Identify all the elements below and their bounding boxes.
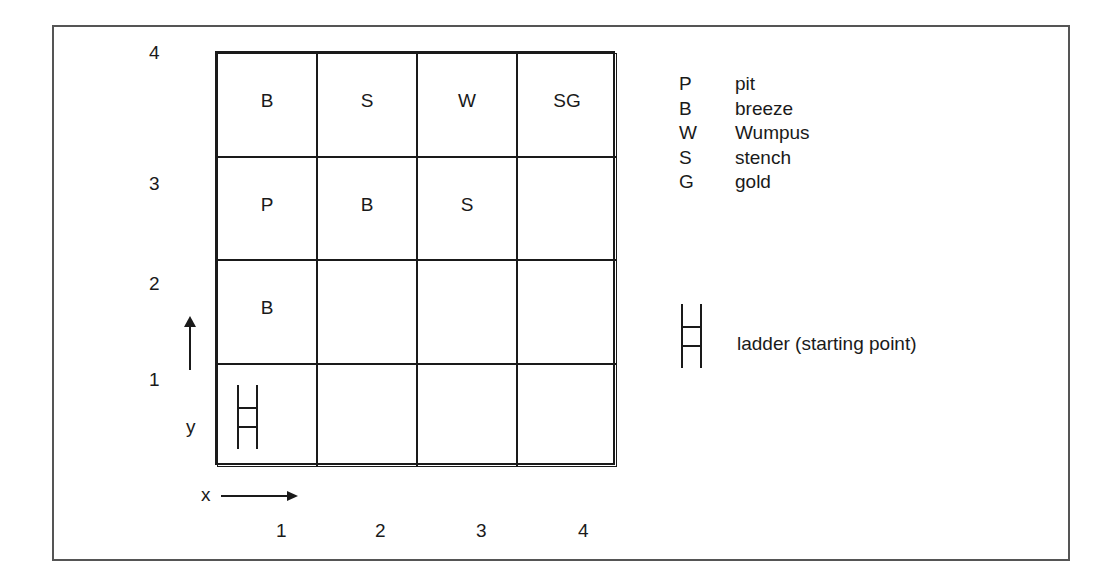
- x-label-1: 1: [276, 520, 287, 542]
- cell-2-2: [317, 260, 417, 364]
- wumpus-grid: B S W SG P B S B: [215, 51, 615, 465]
- legend: P pit B breeze W Wumpus S stench G gold: [679, 73, 810, 196]
- legend-item-pit: P pit: [679, 73, 810, 98]
- x-label-3: 3: [476, 520, 487, 542]
- legend-key: S: [679, 147, 735, 172]
- legend-key: B: [679, 98, 735, 123]
- legend-key: P: [679, 73, 735, 98]
- legend-ladder-icon: [681, 304, 703, 368]
- cell-4-1: [517, 364, 617, 468]
- legend-key: W: [679, 122, 735, 147]
- legend-label: Wumpus: [735, 122, 810, 147]
- cell-3-2: [417, 260, 517, 364]
- y-label-1: 1: [149, 369, 160, 391]
- x-axis-name: x: [201, 484, 211, 506]
- x-axis-arrowhead: [287, 491, 298, 501]
- x-label-4: 4: [578, 520, 589, 542]
- cell-4-2: [517, 260, 617, 364]
- legend-item-wumpus: W Wumpus: [679, 122, 810, 147]
- cell-1-2: B: [217, 260, 317, 364]
- x-axis-arrow: [221, 495, 289, 497]
- y-label-3: 3: [149, 173, 160, 195]
- legend-label: breeze: [735, 98, 793, 123]
- ladder-icon: [237, 385, 259, 449]
- legend-ladder-label: ladder (starting point): [737, 333, 917, 355]
- y-axis-arrow: [189, 318, 191, 370]
- legend-label: gold: [735, 171, 771, 196]
- cell-1-3: P: [217, 157, 317, 261]
- cell-2-1: [317, 364, 417, 468]
- cell-4-4: SG: [517, 53, 617, 157]
- legend-item-breeze: B breeze: [679, 98, 810, 123]
- cell-4-3: [517, 157, 617, 261]
- cell-2-3: B: [317, 157, 417, 261]
- cell-3-3: S: [417, 157, 517, 261]
- y-label-4: 4: [149, 42, 160, 64]
- cell-1-4: B: [217, 53, 317, 157]
- legend-item-gold: G gold: [679, 171, 810, 196]
- cell-1-1: [217, 364, 317, 468]
- x-label-2: 2: [375, 520, 386, 542]
- legend-label: stench: [735, 147, 791, 172]
- legend-item-stench: S stench: [679, 147, 810, 172]
- legend-key: G: [679, 171, 735, 196]
- legend-label: pit: [735, 73, 755, 98]
- cell-3-1: [417, 364, 517, 468]
- cell-2-4: S: [317, 53, 417, 157]
- y-label-2: 2: [149, 273, 160, 295]
- y-axis-name: y: [186, 416, 196, 438]
- cell-3-4: W: [417, 53, 517, 157]
